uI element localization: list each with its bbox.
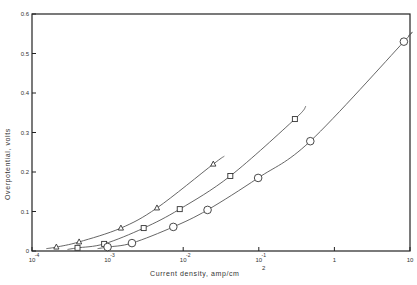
- y-axis-title: Overpotential, volts: [4, 128, 12, 200]
- x-tick-exponent: -1: [262, 252, 267, 258]
- circle-marker-icon: [204, 206, 212, 214]
- y-tick-label: 0.3: [21, 130, 30, 136]
- square-marker-icon: [75, 245, 80, 250]
- circle-marker-icon: [104, 243, 112, 251]
- square-marker-icon: [228, 173, 233, 178]
- triangle-marker-icon: [211, 161, 216, 166]
- curve-squares: [68, 106, 306, 249]
- y-tick-label: 0.2: [21, 169, 30, 175]
- overpotential-chart: 00.10.20.30.40.50.6 10-410-310-210-1110 …: [0, 0, 417, 285]
- square-marker-icon: [177, 207, 182, 212]
- square-marker-icon: [292, 117, 297, 122]
- x-tick-exponent: -3: [110, 252, 115, 258]
- fitted-curves: [46, 32, 412, 249]
- square-marker-icon: [141, 226, 146, 231]
- circle-marker-icon: [400, 38, 408, 46]
- y-tick-label: 0.4: [21, 90, 30, 96]
- y-axis-ticks: 00.10.20.30.40.50.6: [21, 11, 36, 254]
- x-axis-title-superscript: 2: [262, 265, 266, 271]
- circle-marker-icon: [170, 223, 178, 231]
- circle-marker-icon: [254, 174, 262, 182]
- data-markers: [54, 38, 408, 251]
- x-tick-label: 10: [407, 257, 414, 263]
- y-tick-label: 0.6: [21, 11, 30, 17]
- y-tick-label: 0.5: [21, 51, 30, 57]
- circle-marker-icon: [307, 137, 315, 145]
- y-tick-label: 0: [26, 248, 30, 254]
- x-tick-exponent: -4: [35, 252, 40, 258]
- x-tick-label: 1: [333, 257, 337, 263]
- plot-frame: [32, 14, 410, 251]
- triangle-marker-icon: [154, 205, 159, 210]
- curve-triangles: [46, 156, 224, 248]
- x-tick-exponent: -2: [186, 252, 191, 258]
- x-axis-ticks: 10-410-310-210-1110: [29, 247, 414, 263]
- circle-marker-icon: [128, 239, 136, 247]
- y-tick-label: 0.1: [21, 209, 30, 215]
- x-axis-title: Current density, amp/cm: [150, 270, 240, 278]
